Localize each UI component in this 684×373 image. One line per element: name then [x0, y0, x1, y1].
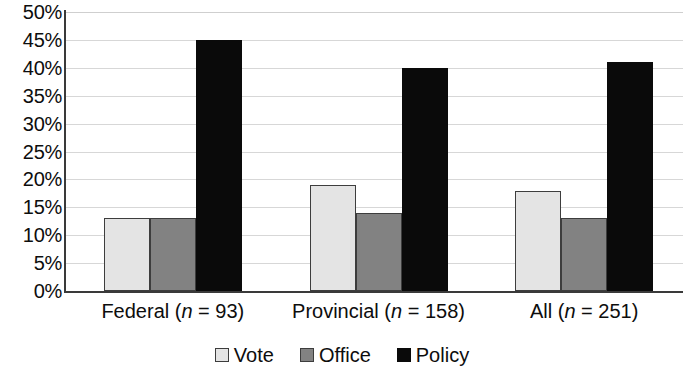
y-axis-tick-label: 35%: [0, 86, 62, 106]
sample-size-value: = 93): [193, 300, 245, 322]
legend-swatch-icon: [397, 348, 411, 362]
bar-all-vote: [515, 191, 561, 291]
x-axis-line: [64, 291, 683, 293]
legend-label: Policy: [416, 344, 469, 366]
legend-label: Office: [319, 344, 371, 366]
y-axis-tick-label: 30%: [0, 114, 62, 134]
y-axis-tick-labels: 50%45%40%35%30%25%20%15%10%5%0%: [0, 0, 62, 300]
category-name: Federal (: [101, 300, 181, 322]
legend-item-office[interactable]: Office: [300, 344, 371, 366]
bar-provincial-policy: [402, 68, 448, 291]
x-axis-category-label: Federal (n = 93): [70, 297, 276, 325]
y-axis-tick-label: 0%: [0, 281, 62, 301]
y-axis-tick-label: 25%: [0, 142, 62, 162]
bar-provincial-vote: [310, 185, 356, 291]
sample-size-symbol: n: [391, 300, 402, 322]
plot-area: [66, 12, 683, 291]
x-axis-category-label: Provincial (n = 158): [276, 297, 482, 325]
bar-federal-vote: [104, 218, 150, 291]
legend-swatch-icon: [300, 348, 314, 362]
bars-layer: [66, 12, 683, 291]
bar-all-office: [561, 218, 607, 291]
y-axis-tick-label: 40%: [0, 58, 62, 78]
y-axis-tick-label: 15%: [0, 197, 62, 217]
sample-size-value: = 158): [402, 300, 465, 322]
sample-size-value: = 251): [576, 300, 639, 322]
x-axis-category-labels: Federal (n = 93)Provincial (n = 158)All …: [66, 297, 683, 329]
legend-swatch-icon: [215, 348, 229, 362]
y-axis-tick-label: 50%: [0, 2, 62, 22]
y-axis-tick-label: 20%: [0, 169, 62, 189]
bar-federal-policy: [196, 40, 242, 291]
y-axis-tick-label: 45%: [0, 30, 62, 50]
bar-all-policy: [607, 62, 653, 291]
sample-size-symbol: n: [181, 300, 192, 322]
bar-chart: 50%45%40%35%30%25%20%15%10%5%0% Federal …: [0, 0, 684, 373]
bar-federal-office: [150, 218, 196, 291]
y-axis-line: [64, 10, 66, 293]
x-axis-category-label: All (n = 251): [481, 297, 684, 325]
sample-size-symbol: n: [564, 300, 575, 322]
legend-item-vote[interactable]: Vote: [215, 344, 274, 366]
y-axis-tick-label: 5%: [0, 253, 62, 273]
chart-legend: VoteOfficePolicy: [0, 344, 684, 366]
y-axis-tick-label: 10%: [0, 225, 62, 245]
bar-provincial-office: [356, 213, 402, 291]
legend-label: Vote: [234, 344, 274, 366]
legend-item-policy[interactable]: Policy: [397, 344, 469, 366]
category-name: All (: [530, 300, 564, 322]
category-name: Provincial (: [292, 300, 391, 322]
